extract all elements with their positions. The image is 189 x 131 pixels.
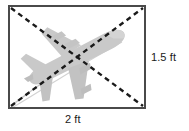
height-dimension-label: 1.5 ft: [151, 51, 176, 63]
geometry-figure: 1.5 ft 2 ft: [0, 0, 189, 131]
width-dimension-label: 2 ft: [65, 113, 81, 125]
diagram-canvas: [0, 0, 189, 131]
